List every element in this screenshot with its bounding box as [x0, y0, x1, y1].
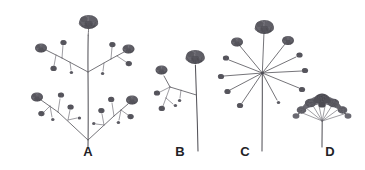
specimen-label-c: C	[240, 144, 250, 159]
botanical-figure: A B C D	[0, 0, 365, 170]
specimen-label-d: D	[325, 144, 335, 159]
specimen-c-hub	[261, 72, 264, 75]
illustration-canvas: A B C D	[0, 0, 365, 170]
specimen-label-a: A	[83, 144, 93, 159]
specimen-label-b: B	[175, 144, 185, 159]
